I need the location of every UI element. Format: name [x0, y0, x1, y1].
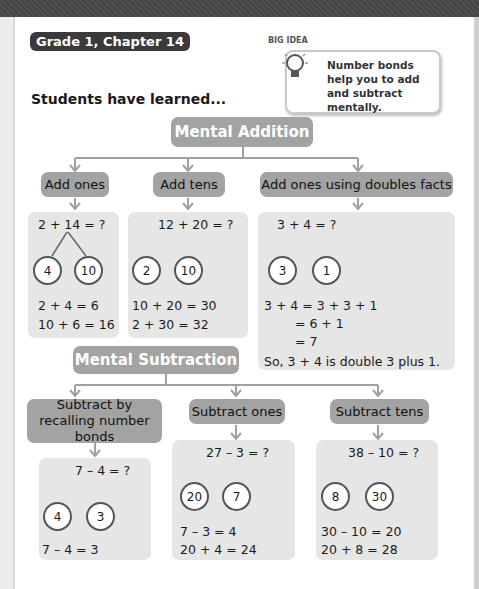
step: 10 + 20 = 30 — [132, 298, 217, 313]
bond-part: 3 — [268, 256, 297, 285]
step: 20 + 4 = 24 — [180, 542, 257, 557]
mental-subtraction-heading: Mental Subtraction — [73, 346, 239, 374]
big-idea-label: BIG IDEA — [268, 36, 308, 45]
bond-part: 7 — [222, 482, 251, 511]
problem: 27 – 3 = ? — [206, 445, 269, 460]
chapter-tag: Grade 1, Chapter 14 — [30, 32, 190, 51]
bond-part: 10 — [174, 256, 203, 285]
mental-addition-heading: Mental Addition — [171, 117, 313, 147]
strategy-add-doubles: Add ones using doubles facts — [260, 172, 453, 197]
bond-part: 10 — [74, 256, 103, 285]
strategy-add-tens: Add tens — [153, 172, 225, 197]
bond-part: 4 — [33, 256, 62, 285]
step: 3 + 4 = 3 + 3 + 1 — [264, 298, 377, 313]
top-border — [0, 0, 479, 17]
problem: 38 – 10 = ? — [348, 445, 419, 460]
bond-part: 8 — [321, 482, 350, 511]
big-idea-text: Number bonds help you to add and subtrac… — [327, 58, 435, 114]
problem: 3 + 4 = ? — [277, 217, 336, 232]
step: 10 + 6 = 16 — [38, 317, 115, 332]
step: 2 + 4 = 6 — [38, 298, 99, 313]
strategy-subtract-bonds: Subtract by recalling number bonds — [27, 399, 162, 443]
problem: 2 + 14 = ? — [38, 217, 105, 232]
bond-part: 30 — [365, 482, 394, 511]
page-edge — [474, 17, 479, 589]
step: = 6 + 1 — [295, 316, 344, 331]
step: 7 – 3 = 4 — [180, 524, 236, 539]
strategy-subtract-tens: Subtract tens — [330, 399, 429, 424]
problem: 12 + 20 = ? — [158, 217, 233, 232]
bond-part: 3 — [86, 502, 115, 531]
step: = 7 — [295, 334, 317, 349]
example-card-add-doubles — [258, 212, 455, 370]
strategy-subtract-ones: Subtract ones — [189, 399, 285, 424]
step: 20 + 8 = 28 — [321, 542, 398, 557]
bond-part: 1 — [312, 256, 341, 285]
intro-heading: Students have learned... — [31, 91, 226, 107]
step: 7 – 4 = 3 — [42, 542, 98, 557]
bond-part: 20 — [180, 482, 209, 511]
conclusion: So, 3 + 4 is double 3 plus 1. — [264, 354, 440, 369]
step: 2 + 30 = 32 — [132, 317, 209, 332]
bond-part: 2 — [132, 256, 161, 285]
step: 30 – 10 = 20 — [321, 524, 401, 539]
lightbulb-icon — [280, 50, 310, 86]
strategy-add-ones: Add ones — [41, 172, 109, 197]
bond-part: 4 — [43, 502, 72, 531]
problem: 7 – 4 = ? — [75, 463, 130, 478]
